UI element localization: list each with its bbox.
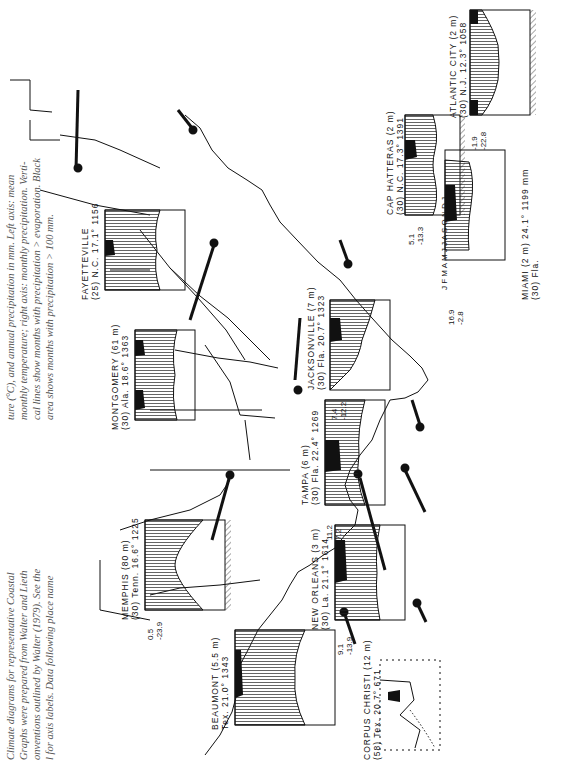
label-fayetteville: FAYETTEVILLE (25) N.C. 17.1° 1156: [80, 203, 100, 300]
min-temp-miami: 16.9 -2.8: [447, 309, 465, 325]
label-atlantic-city: ATLANTIC CITY (2 m) (30) N.J. 12.3° 1058: [448, 15, 468, 118]
min-temp-value: 7.4: [330, 402, 339, 420]
station-name: JACKSONVILLE (7 m): [306, 287, 316, 391]
min-temp-jacksonville: 7.4 -12.2: [330, 402, 348, 420]
label-beaumont: BEAUMONT (5.5 m) Tex. 21.0° 1343: [210, 637, 230, 730]
diagram-memphis: [145, 520, 231, 610]
station-name: FAYETTEVILLE: [80, 203, 90, 300]
min-temp-value: 0.5: [146, 622, 155, 640]
station-name: MONTGOMERY (61 m): [110, 324, 120, 430]
min-temp-atlantic-city: -1.9 -22.8: [470, 132, 488, 150]
station-name: ATLANTIC CITY (2 m): [448, 15, 458, 118]
diagram-beaumont: [235, 630, 335, 725]
station-name: MEMPHIS (80 m): [120, 517, 130, 620]
figure-page: Climate diagrams for representative Coas…: [0, 0, 583, 762]
label-miami: MIAMI (2 m) 24.1° 1199 mm (30) Fla.: [520, 169, 540, 300]
diagram-miami: [445, 150, 505, 260]
label-new-orleans: NEW ORLEANS (3 m) (30) La. 21.1° 1614: [310, 528, 330, 630]
station-stats: (30) Fla. 22.4° 1269: [310, 410, 320, 505]
min-temp-cap-hatteras: 5.1 -13.3: [407, 227, 425, 245]
station-stats: (30) Tenn. 16.6° 1225: [130, 517, 140, 620]
abs-min-value: -13.9: [345, 637, 354, 655]
abs-min-value: -23.9: [155, 622, 164, 640]
min-temp-value: 16.9: [447, 309, 456, 325]
min-temp-new-orleans: 9.1 -13.9: [336, 637, 354, 655]
station-stats: Tex. 21.0° 1343: [220, 637, 230, 730]
station-stats: (30) Fla. 20.7° 1323: [316, 287, 326, 391]
label-cap-hatteras: CAP HATTERAS (2 m) (30) N.C. 17.3° 1391: [385, 110, 405, 215]
diagram-fayetteville: [105, 210, 185, 290]
station-stats: (30) Fla.: [530, 169, 540, 300]
label-corpus-christi: CORPUS CHRISTI (12 m) (58) Tex. 20.7° 67…: [362, 639, 382, 760]
station-stats: (30) N.C. 17.3° 1391: [395, 110, 405, 215]
station-name: BEAUMONT (5.5 m): [210, 637, 220, 730]
label-jacksonville: JACKSONVILLE (7 m) (30) Fla. 20.7° 1323: [306, 287, 326, 391]
abs-min-value: -12.2: [339, 402, 348, 420]
abs-min-value: -22.8: [479, 132, 488, 150]
miami-temp-axis: J F M A M J J A S O N D J: [440, 197, 449, 290]
station-stats: (58) Tex. 20.7° 671: [372, 639, 382, 760]
diagram-corpus-christi: [380, 660, 440, 750]
month-axis: J F M A M J J A S O N D J: [440, 197, 449, 290]
diagram-atlantic-city: [470, 10, 536, 115]
station-name: TAMPA (6 m): [300, 410, 310, 505]
label-memphis: MEMPHIS (80 m) (30) Tenn. 16.6° 1225: [120, 517, 140, 620]
station-name: MIAMI (2 m) 24.1° 1199 mm: [520, 169, 530, 300]
station-name: CAP HATTERAS (2 m): [385, 110, 395, 215]
abs-min-value: 7.2: [334, 525, 343, 540]
label-tampa: TAMPA (6 m) (30) Fla. 22.4° 1269: [300, 410, 320, 505]
min-temp-value: 9.1: [336, 637, 345, 655]
station-stats: (30) La. 21.1° 1614: [320, 528, 330, 630]
diagram-jacksonville: [330, 300, 390, 390]
diagram-new-orleans: [335, 525, 405, 620]
diagram-montgomery: [135, 330, 195, 420]
abs-min-value: -2.8: [456, 309, 465, 325]
min-temp-memphis: 0.5 -23.9: [146, 622, 164, 640]
station-stats: (30) Ala. 18.6° 1363: [120, 324, 130, 430]
label-montgomery: MONTGOMERY (61 m) (30) Ala. 18.6° 1363: [110, 324, 130, 430]
min-temp-value: -1.9: [470, 132, 479, 150]
station-stats: (25) N.C. 17.1° 1156: [90, 203, 100, 300]
min-temp-value: 5.1: [407, 227, 416, 245]
climate-diagrams: [0, 0, 583, 762]
station-stats: (30) N.J. 12.3° 1058: [458, 15, 468, 118]
abs-min-value: -13.3: [416, 227, 425, 245]
station-name: NEW ORLEANS (3 m): [310, 528, 320, 630]
station-name: CORPUS CHRISTI (12 m): [362, 639, 372, 760]
